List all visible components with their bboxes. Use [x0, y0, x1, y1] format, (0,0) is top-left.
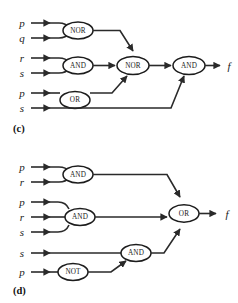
panel-d: p r p r s s p AND AND: [13, 161, 230, 297]
gate-c-and-2-label: AND: [181, 62, 197, 70]
wire-d-not-to-and3: [88, 261, 126, 272]
panel-label-d: (d): [13, 285, 26, 297]
input-label-c-q: q: [19, 32, 25, 44]
figure-root: p q r s p s NOR AND: [0, 0, 238, 303]
panel-c: p q r s p s NOR AND: [13, 17, 232, 135]
gate-c-nor-2-label: NOR: [125, 62, 141, 70]
wire-d-and3-to-or: [151, 229, 180, 253]
gate-c-and-1-label: AND: [70, 62, 86, 70]
input-label-d-r1: r: [20, 176, 25, 188]
gate-c-nor-1-label: NOR: [70, 27, 86, 35]
input-label-d-s2: s: [20, 247, 24, 259]
circuit-diagram-svg: p q r s p s NOR AND: [0, 0, 238, 303]
wire-d-s1-curve: [50, 225, 69, 232]
input-label-d-p2: p: [18, 196, 25, 208]
gate-d-and-3-label: AND: [128, 249, 144, 257]
input-label-c-r: r: [20, 52, 25, 64]
gate-d-not-1-label: NOT: [65, 268, 81, 276]
output-label-c-f: f: [227, 60, 232, 72]
gate-d-and-2-label: AND: [72, 213, 88, 221]
input-label-c-p2: p: [18, 87, 25, 99]
input-label-d-s1: s: [20, 226, 24, 238]
gate-d-or-1-label: OR: [179, 210, 189, 218]
wire-c-or-to-nor2: [90, 76, 127, 93]
input-label-d-p3: p: [18, 266, 25, 278]
output-label-d-f: f: [225, 208, 230, 220]
gate-c-or-1-label: OR: [70, 96, 80, 104]
panel-label-c: (c): [13, 123, 25, 135]
input-label-c-p1: p: [18, 17, 25, 29]
wire-d-p2-curve: [50, 202, 69, 209]
wire-c-nor1-to-nor2: [93, 31, 133, 52]
wire-d-and1-to-or: [93, 175, 180, 198]
input-label-d-r2: r: [20, 211, 25, 223]
gate-d-and-1-label: AND: [70, 171, 86, 179]
input-label-c-s2: s: [20, 102, 24, 114]
input-label-c-s1: s: [20, 67, 24, 79]
input-label-d-p1: p: [18, 161, 25, 173]
